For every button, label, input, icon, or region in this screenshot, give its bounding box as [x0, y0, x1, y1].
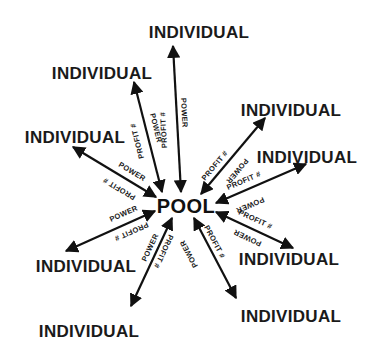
node-individual-top: INDIVIDUAL: [149, 23, 249, 42]
arrow-lower-right: PROFIT # POWER: [216, 208, 293, 249]
edge-label-profit: PROFIT #: [113, 220, 150, 243]
node-individual-upper-left: INDIVIDUAL: [52, 64, 152, 83]
node-individual-right: INDIVIDUAL: [257, 148, 357, 167]
node-individual-lower-right: INDIVIDUAL: [239, 250, 339, 269]
arrow-right: PROFIT # POWER: [216, 164, 306, 215]
node-individual-lower-left: INDIVIDUAL: [36, 257, 136, 276]
arrow-lower-left: POWER PROFIT #: [66, 203, 155, 251]
edge-label-profit: PROFIT #: [101, 175, 137, 202]
edge-label-power: POWER: [117, 160, 147, 183]
arrow-top: PROFIT # POWER: [158, 46, 189, 192]
hub-pool: POOL: [157, 195, 216, 217]
edge-label-power: POWER: [179, 98, 190, 129]
node-individual-upper-right: INDIVIDUAL: [241, 101, 341, 120]
arrow-bottom-right: PROFIT # POWER: [178, 218, 236, 298]
node-individual-left: INDIVIDUAL: [25, 128, 125, 147]
diagram-canvas: PROFIT # POWER PROFIT # POWER PROFIT # P…: [0, 0, 379, 353]
pool-diagram: PROFIT # POWER PROFIT # POWER PROFIT # P…: [0, 0, 379, 353]
edge-label-profit: PROFIT #: [128, 122, 146, 160]
edge-label-profit: PROFIT #: [237, 208, 274, 232]
edge-label-power: POWER: [178, 238, 200, 269]
node-individual-bottom-right: INDIVIDUAL: [241, 307, 341, 326]
node-individual-bottom-left: INDIVIDUAL: [39, 322, 139, 341]
